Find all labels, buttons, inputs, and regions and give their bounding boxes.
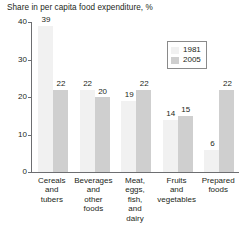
y-axis-tick-mark <box>28 60 31 61</box>
bar-1981 <box>80 90 95 173</box>
y-axis-tick-label: 40 <box>18 18 27 26</box>
legend-swatch-1981 <box>171 47 179 54</box>
bar-1981 <box>121 101 136 172</box>
bar-group: 3922 <box>33 22 75 172</box>
y-axis-ticks: 010203040 <box>0 0 27 241</box>
y-axis-tick-mark <box>28 135 31 136</box>
x-axis-line <box>31 172 239 173</box>
legend-label-1981: 1981 <box>183 46 201 54</box>
bar-2005 <box>178 116 193 172</box>
y-axis-tick-label: 30 <box>18 56 27 64</box>
bar-value-label: 22 <box>49 80 73 88</box>
legend-item-2005: 2005 <box>171 55 201 65</box>
chart-title: Share in per capita food expenditure, % <box>7 3 153 13</box>
bar-value-label: 39 <box>34 16 58 24</box>
legend-label-2005: 2005 <box>183 56 201 64</box>
bar-2005 <box>95 97 110 172</box>
x-axis-category-label: Meat,eggs,fish,anddairy <box>113 176 157 223</box>
y-axis-tick-mark <box>28 97 31 98</box>
bar-2005 <box>53 90 68 173</box>
bar-1981 <box>204 150 219 173</box>
legend-swatch-2005 <box>171 57 179 64</box>
legend-item-1981: 1981 <box>171 45 201 55</box>
y-axis-tick-label: 0 <box>23 168 27 176</box>
x-axis-category-label: Beveragesandotherfoods <box>71 176 115 214</box>
bar-2005 <box>219 90 234 173</box>
x-axis-category-label: Cerealsandtubers <box>30 176 74 204</box>
y-axis-tick-label: 10 <box>18 131 27 139</box>
bar-1981 <box>163 120 178 173</box>
y-axis-tick-label: 20 <box>18 93 27 101</box>
bar-chart: Share in per capita food expenditure, % … <box>0 0 245 241</box>
bar-group: 2220 <box>75 22 117 172</box>
y-axis-tick-mark <box>28 22 31 23</box>
x-axis-category-label: Preparedfoods <box>196 176 240 195</box>
bar-group: 1922 <box>116 22 158 172</box>
plot-area: 3922222019221415622 <box>31 22 239 172</box>
x-axis-category-label: Fruitsandvegetables <box>155 176 199 204</box>
y-axis-tick-mark <box>28 172 31 173</box>
bar-value-label: 22 <box>215 80 239 88</box>
chart-legend: 1981 2005 <box>167 41 207 69</box>
bar-value-label: 15 <box>174 106 198 114</box>
bar-2005 <box>136 90 151 173</box>
bar-1981 <box>38 26 53 172</box>
bar-value-label: 20 <box>91 88 115 96</box>
bar-value-label: 22 <box>132 80 156 88</box>
